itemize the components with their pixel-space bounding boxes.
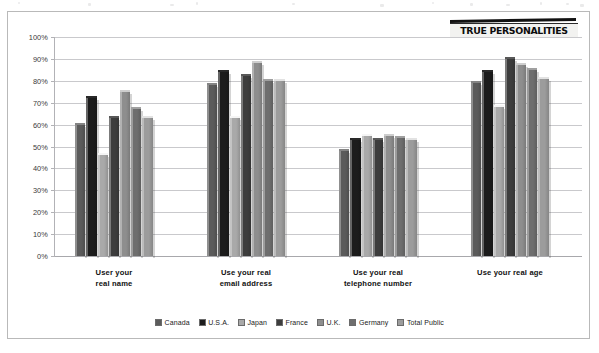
bar-top-face [86,96,96,98]
scan-speck [540,2,542,5]
bar-highlight [263,81,265,256]
bar-highlight [406,140,408,256]
y-axis-tick-label: 40% [33,164,48,173]
bar [252,63,262,256]
bar-highlight [241,76,243,256]
scan-speck [18,2,20,4]
bar [75,125,85,256]
bar-top-face [527,68,537,70]
x-axis-label-line: real name [48,279,180,290]
bar-shadow [285,83,287,258]
bar [505,59,515,256]
legend-swatch [276,319,283,326]
bar-top-face [241,74,251,76]
scan-speck [196,2,198,5]
bar-highlight [120,92,122,256]
bar-top-face [494,105,504,107]
scan-speck [88,3,91,6]
legend-label: Japan [247,319,267,326]
y-axis-tick-label: 80% [33,76,48,85]
bar-highlight [252,63,254,256]
legend-item[interactable]: Germany [349,319,388,326]
bar-top-face [218,70,228,72]
bar [86,98,96,256]
bar-highlight [538,79,540,256]
scan-speck [470,3,473,6]
legend-item[interactable]: U.S.A. [199,319,229,326]
legend-swatch [199,319,206,326]
bar-top-face [395,136,405,138]
bar-group [471,37,548,256]
chart-screenshot: TRUE PERSONALITIES 100%90%80%70%60%50%40… [0,0,599,353]
scan-speck [580,4,584,7]
legend-swatch [317,319,324,326]
bar-top-face [538,77,548,79]
scan-speck [380,4,384,7]
legend-label: Total Public [407,319,444,326]
bar-top-face [339,149,349,151]
y-axis-tick-label: 70% [33,98,48,107]
bar [494,107,504,256]
legend-item[interactable]: Total Public [397,319,444,326]
x-axis-category-label: Use your realemail address [180,268,312,289]
x-axis-category-label: Use your real age [444,268,576,279]
bar-highlight [494,107,496,256]
bar [131,109,141,256]
chart-legend: CanadaU.S.A.JapanFranceU.K.GermanyTotal … [8,319,591,326]
bar [207,85,217,256]
y-axis-tick-label: 90% [33,54,48,63]
bar-highlight [339,151,341,256]
bar [339,151,349,256]
y-axis-tick-label: 30% [33,186,48,195]
bar-top-face [384,134,394,136]
bar-highlight [109,118,111,256]
bar-group [75,37,152,256]
legend-swatch [238,319,245,326]
bar-shadow [153,120,155,258]
bar-highlight [527,70,529,256]
bar-highlight [274,81,276,256]
y-axis-tick-label: 20% [33,208,48,217]
bar-highlight [142,118,144,256]
x-axis-category-label: Use your realtelephone number [312,268,444,289]
bar [98,155,108,256]
legend-item[interactable]: Canada [155,319,190,326]
bar [395,138,405,256]
bar-top-face [142,116,152,118]
legend-item[interactable]: France [276,319,308,326]
bar-top-face [482,70,492,72]
bar [527,70,537,256]
scan-speck [566,3,569,5]
watermark-label: TRUE PERSONALITIES [454,25,574,36]
bar-top-face [131,107,141,109]
bar-top-face [207,83,217,85]
bar [263,81,273,256]
bar-shadow [417,142,419,258]
scan-speck [170,4,174,6]
scan-speck [292,3,295,5]
y-axis-tick-label: 0% [37,252,48,261]
bar-highlight [218,72,220,256]
bar-highlight [350,140,352,256]
bar-groups [54,37,582,256]
bar [362,136,372,256]
x-axis-label-line: User your [48,268,180,279]
bar [230,118,240,256]
bar-highlight [75,125,77,256]
bar-highlight [207,85,209,256]
bar-highlight [131,109,133,256]
bar [142,118,152,256]
legend-item[interactable]: Japan [238,319,267,326]
bar-top-face [98,153,108,155]
y-axis-tick-label: 60% [33,120,48,129]
legend-label: Germany [359,319,389,326]
bar-highlight [482,72,484,256]
legend-label: U.K. [326,319,340,326]
x-axis-category-labels: User yourreal nameUse your realemail add… [54,268,582,302]
legend-item[interactable]: U.K. [317,319,341,326]
legend-swatch [349,319,356,326]
y-axis-tick-label: 10% [33,230,48,239]
x-axis-label-line: telephone number [312,279,444,290]
bar [538,79,548,256]
bar-shadow [549,81,551,258]
